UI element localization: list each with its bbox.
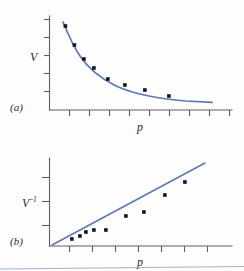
panel-a: V p (a) <box>10 16 232 134</box>
footer-rule <box>0 267 244 270</box>
panel-b-x-axis-label: p <box>136 255 143 269</box>
panel-a-y-ticks <box>44 20 50 92</box>
panel-b-fit-line <box>52 163 205 245</box>
panel-a-x-ticks <box>70 110 230 116</box>
panel-b-data-points <box>70 180 187 241</box>
panel-a-y-axis-label: V <box>30 50 39 64</box>
panel-b-y-axis-label-exponent: -1 <box>31 195 37 204</box>
panel-a-x-axis-label: p <box>136 120 143 134</box>
panel-b-label: (b) <box>10 235 23 248</box>
panel-b-y-ticks <box>42 178 50 226</box>
panel-b-x-ticks <box>70 246 208 252</box>
figure-container: V p (a) <box>0 0 244 271</box>
figure-svg: V p (a) <box>0 0 244 271</box>
panel-a-label: (a) <box>10 101 23 114</box>
panel-a-fit-curve <box>63 22 212 102</box>
panel-b: V -1 p (b) <box>10 158 232 269</box>
